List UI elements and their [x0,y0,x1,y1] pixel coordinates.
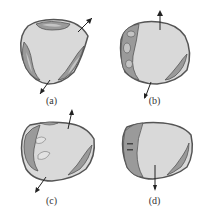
panel-label-b: (b) [103,95,206,106]
panel-d: (d) [103,109,206,218]
panel-label-c: (c) [0,195,103,206]
panel-label-d: (d) [103,195,206,206]
panel-c: (c) [0,109,103,218]
panel-b: (b) [103,0,206,109]
panel-label-a: (a) [0,95,103,106]
cell-diagram-a [0,0,103,109]
cell-diagram-b [103,0,206,109]
panel-a: (a) [0,0,103,109]
